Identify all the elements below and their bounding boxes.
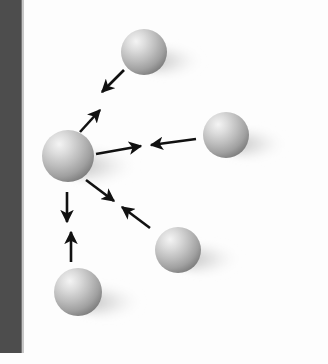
sphere-bottom xyxy=(54,268,102,316)
sphere-top xyxy=(121,29,167,75)
scan-edge-bar xyxy=(0,0,22,353)
sphere-lower-right xyxy=(155,227,201,273)
scan-edge-bar-feather xyxy=(21,0,24,353)
sphere-center xyxy=(42,130,94,182)
sphere-right xyxy=(203,112,249,158)
physics-diagram-canvas xyxy=(0,0,328,364)
figure-container: Gravitational attraction between masses xyxy=(0,0,328,364)
